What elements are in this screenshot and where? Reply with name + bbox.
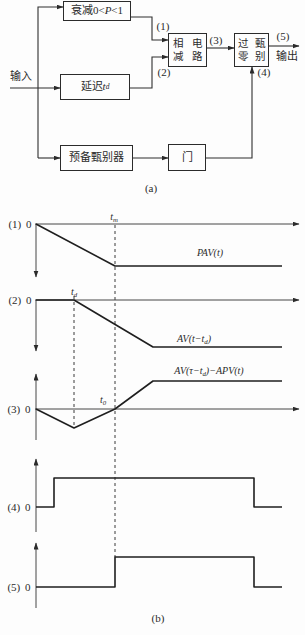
row3-zero-label: (3) 0 (7, 403, 30, 415)
row1-zero-label: (1) 0 (8, 218, 31, 230)
input-label: 输入 (10, 67, 32, 83)
gate-to-zerocross (206, 67, 252, 158)
figure: 衰减0<P<1 延迟td 预备甄别器 相减电路 过零甄别 门 输入 输出 (1)… (0, 0, 305, 635)
signal-tag-4: (4) (258, 66, 271, 78)
curve-label-difference: AV(τ−td)−APV(t) (174, 365, 243, 377)
output-label: 输出 (276, 47, 298, 63)
caption-a: (a) (145, 182, 157, 194)
signal-tag-1: (1) (157, 20, 170, 32)
curve-label-av-delayed: AV(t−td) (177, 333, 211, 345)
row-1-waveform (36, 224, 282, 266)
diagram-lines-layer (0, 0, 305, 635)
time-label-t0: t0 (100, 394, 106, 406)
curve-label-pav: PAV(t) (197, 247, 223, 258)
time-label-tm: tm (110, 211, 118, 223)
delay-box: 延迟td (60, 74, 130, 100)
zero-crossing-box: 过零甄别 (234, 33, 269, 67)
row-4-waveform (36, 478, 282, 507)
pre-discriminator-box: 预备甄别器 (60, 145, 133, 171)
signal-tag-3: (3) (210, 34, 223, 46)
row4-zero-label: (4) 0 (7, 501, 30, 513)
gate-box: 门 (168, 144, 206, 171)
row2-zero-label: (2) 0 (8, 294, 31, 306)
row5-zero-label: (5) 0 (7, 581, 30, 593)
attenuation-box: 衰减0<P<1 (63, 1, 131, 21)
subtractor-box: 相减电路 (168, 33, 207, 67)
time-label-td: td (71, 286, 77, 298)
signal-tag-5: (5) (277, 30, 290, 42)
row-2-waveform (36, 300, 282, 347)
row-3-waveform (36, 381, 282, 428)
signal-tag-2: (2) (158, 66, 171, 78)
caption-b: (b) (152, 612, 165, 624)
row-5-waveform (36, 557, 282, 587)
